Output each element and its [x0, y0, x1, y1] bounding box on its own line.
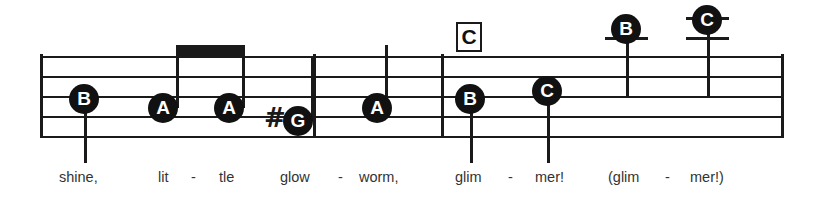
- lyric-syllable-8: glim: [455, 169, 482, 185]
- lyric-syllable-6: -: [338, 169, 343, 185]
- sharp-icon-note-4: #: [264, 105, 286, 131]
- staff-line-2: [40, 76, 783, 78]
- chord-symbol-c: C: [456, 22, 482, 52]
- notehead-note-2-a: A: [148, 93, 178, 123]
- lyric-syllable-10: mer!: [535, 169, 564, 185]
- notehead-note-6-b: B: [455, 84, 485, 114]
- sheet-music-excerpt: BAAGABCBC # C shine,lit-tleglow-worm,gli…: [0, 0, 822, 197]
- notehead-note-4-g: G: [283, 106, 313, 136]
- lyric-syllable-12: -: [665, 169, 670, 185]
- notehead-note-8-b: B: [611, 14, 641, 44]
- lyric-syllable-11: (glim: [608, 169, 639, 185]
- lyric-syllable-3: -: [191, 169, 196, 185]
- beam-1: [176, 45, 245, 56]
- barline-2: [441, 54, 444, 138]
- notehead-note-1-b: B: [69, 84, 99, 114]
- lyric-syllable-13: mer!): [690, 169, 724, 185]
- notehead-note-9-c: C: [692, 5, 722, 35]
- lyric-syllable-9: -: [508, 169, 513, 185]
- staff-line-5: [40, 136, 783, 138]
- barline-start: [40, 54, 43, 138]
- lyric-syllable-4: tle: [219, 169, 234, 185]
- barline-end: [781, 54, 784, 138]
- lyric-syllable-2: lit: [158, 169, 168, 185]
- note-stem-note-4: [311, 58, 314, 121]
- lyric-syllable-5: glow: [280, 169, 310, 185]
- lyric-syllable-7: worm,: [359, 169, 398, 185]
- ledger-line-note-9-2: [686, 37, 729, 40]
- lyric-syllable-1: shine,: [59, 169, 98, 185]
- notehead-note-5-a: A: [362, 93, 392, 123]
- staff-line-1: [40, 56, 783, 58]
- notehead-note-3-a: A: [214, 93, 244, 123]
- notehead-note-7-c: C: [532, 76, 562, 106]
